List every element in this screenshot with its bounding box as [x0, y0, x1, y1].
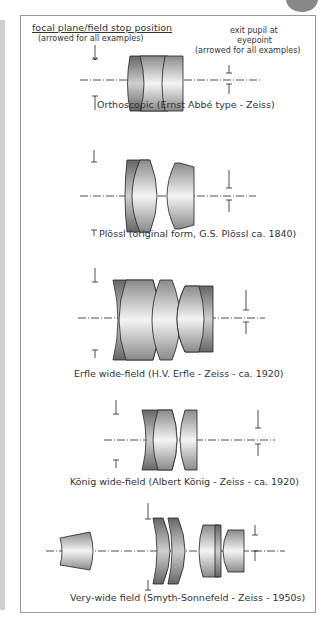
- very-wide-diagram: [46, 503, 285, 590]
- design-name: Erfle wide-field (H.V. Erfle - Zeiss - c…: [74, 368, 284, 379]
- design-name: Plössl (original form, G.S. Plössl ca. 1…: [99, 228, 296, 239]
- exit-pupil-label-1: exit pupil at: [230, 26, 278, 35]
- focal-plane-label: focal plane/field stop position: [32, 22, 172, 33]
- erfle-diagram: [78, 268, 265, 360]
- design-name: Very-wide field (Smyth-Sonnefeld - Zeiss…: [70, 592, 305, 603]
- plossl-diagram: [80, 150, 256, 236]
- exit-pupil-label-2: eyepoint: [237, 36, 272, 45]
- design-name: Orthoscopic (Ernst Abbé type - Zeiss): [97, 99, 275, 110]
- focal-plane-sub: (arrowed for all examples): [38, 34, 143, 43]
- eyepiece-diagrams: [0, 0, 324, 619]
- exit-pupil-sub: (arrowed for all examples): [195, 46, 300, 55]
- konig-diagram: [104, 400, 275, 470]
- design-name: König wide-field (Albert König - Zeiss -…: [70, 476, 299, 487]
